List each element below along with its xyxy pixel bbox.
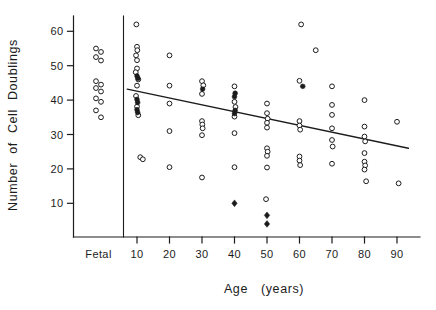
data-point-open-circle bbox=[330, 126, 335, 131]
data-point-open-circle bbox=[395, 119, 400, 124]
data-point-open-circle bbox=[330, 138, 335, 143]
x-tick-label: 20 bbox=[163, 248, 176, 260]
data-point-open-circle bbox=[94, 79, 99, 84]
data-point-filled-diamond bbox=[264, 221, 269, 228]
data-point-filled-circle bbox=[232, 94, 237, 99]
data-point-open-circle bbox=[99, 58, 104, 63]
data-point-open-circle bbox=[364, 179, 369, 184]
data-point-open-circle bbox=[94, 86, 99, 91]
data-point-open-circle bbox=[362, 134, 367, 139]
scatter-plot-figure: 102030405060102030405060708090Fetal Numb… bbox=[0, 0, 436, 310]
y-tick-label: 30 bbox=[50, 129, 63, 141]
data-point-open-circle bbox=[140, 157, 145, 162]
y-tick-label: 20 bbox=[50, 163, 63, 175]
data-point-open-circle bbox=[299, 22, 304, 27]
data-point-open-circle bbox=[167, 129, 172, 134]
data-point-open-circle bbox=[99, 99, 104, 104]
data-point-open-circle bbox=[94, 55, 99, 60]
data-point-open-circle bbox=[135, 83, 140, 88]
data-point-open-circle bbox=[265, 101, 270, 106]
data-point-open-circle bbox=[362, 124, 367, 129]
data-point-open-circle bbox=[362, 98, 367, 103]
data-point-filled-circle bbox=[200, 87, 205, 92]
y-tick-label: 40 bbox=[50, 94, 63, 106]
data-point-open-circle bbox=[298, 127, 303, 132]
x-tick-label: 10 bbox=[130, 248, 143, 260]
data-point-open-circle bbox=[232, 131, 237, 136]
data-point-open-circle bbox=[167, 101, 172, 106]
data-point-open-circle bbox=[232, 84, 237, 89]
data-point-open-circle bbox=[99, 50, 104, 55]
data-point-open-circle bbox=[362, 167, 367, 172]
data-points bbox=[94, 22, 401, 227]
data-point-open-circle bbox=[363, 139, 368, 144]
x-tick-label: 90 bbox=[390, 248, 403, 260]
x-tick-label-fetal: Fetal bbox=[85, 248, 111, 260]
data-point-open-circle bbox=[330, 112, 335, 117]
y-tick-label: 60 bbox=[50, 25, 63, 37]
data-point-open-circle bbox=[396, 181, 401, 186]
data-point-filled-diamond bbox=[232, 200, 237, 207]
y-tick-label: 50 bbox=[50, 60, 63, 72]
data-point-open-circle bbox=[94, 46, 99, 51]
data-point-open-circle bbox=[232, 165, 237, 170]
x-tick-label: 30 bbox=[195, 248, 208, 260]
data-point-open-circle bbox=[167, 83, 172, 88]
data-point-open-circle bbox=[135, 48, 140, 53]
x-axis-title: Age (years) bbox=[224, 282, 304, 296]
data-point-open-circle bbox=[330, 161, 335, 166]
data-point-open-circle bbox=[200, 92, 205, 97]
data-point-open-circle bbox=[330, 144, 335, 149]
scatter-chart: 102030405060102030405060708090Fetal Numb… bbox=[0, 0, 436, 310]
data-point-filled-circle bbox=[135, 100, 140, 105]
data-point-open-circle bbox=[99, 115, 104, 120]
data-point-filled-diamond bbox=[264, 212, 269, 219]
data-point-filled-circle bbox=[135, 110, 140, 115]
data-point-open-circle bbox=[298, 163, 303, 168]
data-point-filled-circle bbox=[232, 111, 237, 116]
data-point-open-circle bbox=[265, 165, 270, 170]
data-point-open-circle bbox=[94, 108, 99, 113]
data-point-open-circle bbox=[99, 89, 104, 94]
data-point-open-circle bbox=[94, 96, 99, 101]
x-tick-label: 80 bbox=[358, 248, 371, 260]
data-point-open-circle bbox=[134, 22, 139, 27]
data-point-open-circle bbox=[313, 48, 318, 53]
y-tick-label: 10 bbox=[50, 197, 63, 209]
data-point-open-circle bbox=[265, 153, 270, 158]
data-point-open-circle bbox=[167, 165, 172, 170]
data-point-open-circle bbox=[330, 103, 335, 108]
data-point-filled-circle bbox=[300, 84, 305, 89]
data-point-open-circle bbox=[134, 53, 139, 58]
data-point-open-circle bbox=[264, 197, 269, 202]
x-tick-label: 50 bbox=[260, 248, 273, 260]
data-point-open-circle bbox=[200, 126, 205, 131]
x-tick-label: 70 bbox=[325, 248, 338, 260]
data-point-open-circle bbox=[99, 82, 104, 87]
data-point-open-circle bbox=[265, 120, 270, 125]
data-point-open-circle bbox=[232, 99, 237, 104]
data-point-open-circle bbox=[265, 125, 270, 130]
data-point-open-circle bbox=[200, 133, 205, 138]
data-point-open-circle bbox=[167, 53, 172, 58]
data-point-open-circle bbox=[265, 111, 270, 116]
x-tick-label: 40 bbox=[228, 248, 241, 260]
y-axis-title: Number of Cell Doublings bbox=[6, 39, 20, 211]
data-point-open-circle bbox=[330, 84, 335, 89]
data-point-open-circle bbox=[135, 58, 140, 63]
data-point-filled-circle bbox=[136, 76, 141, 81]
data-point-open-circle bbox=[362, 151, 367, 156]
data-point-open-circle bbox=[297, 78, 302, 83]
data-point-open-circle bbox=[200, 175, 205, 180]
x-tick-label: 60 bbox=[293, 248, 306, 260]
